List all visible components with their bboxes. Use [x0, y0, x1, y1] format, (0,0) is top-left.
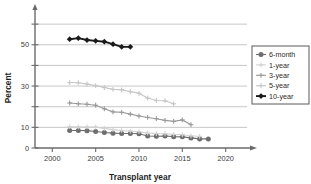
x-axis-tick-label: 2000 — [44, 154, 60, 163]
data-point-marker — [93, 38, 99, 44]
data-point-marker — [75, 35, 81, 41]
x-axis-ticks: 20002005201020152020 — [44, 148, 234, 163]
series-5-year — [67, 80, 176, 106]
data-point-marker — [84, 37, 90, 43]
x-axis-tick-label: 2005 — [87, 154, 103, 163]
series-10-year — [67, 35, 133, 49]
data-point-marker — [101, 39, 107, 45]
y-axis-title: Percent — [3, 72, 13, 103]
y-axis-tick-label: 30 — [21, 82, 29, 91]
x-axis-arrow — [250, 145, 257, 150]
data-point-marker — [93, 129, 98, 134]
chart-container: 0103050 20002005201020152020 Percent Tra… — [0, 0, 311, 184]
legend-item-label: 1-year — [269, 61, 290, 70]
axes — [32, 4, 257, 151]
chart-legend: 6-month1-year3-year5-year10-year — [252, 46, 309, 104]
data-point-marker — [67, 36, 73, 42]
x-axis-title: Transplant year — [109, 172, 172, 182]
data-point-marker — [206, 136, 211, 141]
legend-item-label: 3-year — [269, 71, 290, 80]
y-axis-arrow — [32, 4, 37, 10]
x-axis-tick-label: 2010 — [131, 154, 147, 163]
data-point-marker — [110, 41, 116, 47]
y-axis-tick-label: 50 — [21, 40, 29, 49]
y-axis-tick-label: 0 — [25, 144, 29, 153]
series-3-year — [67, 101, 193, 127]
legend-item-label: 10-year — [269, 92, 294, 101]
y-axis-ticks: 0103050 — [21, 24, 39, 153]
legend-item-label: 5-year — [269, 81, 290, 90]
y-axis-tick-label: 10 — [21, 123, 29, 132]
data-series-group — [67, 35, 211, 141]
x-axis-tick-label: 2015 — [174, 154, 190, 163]
legend-item-label: 6-month — [269, 50, 295, 59]
line-chart: 0103050 20002005201020152020 Percent Tra… — [0, 0, 311, 184]
gridlines — [35, 24, 247, 127]
data-point-marker — [259, 52, 264, 57]
x-axis-tick-label: 2020 — [217, 154, 233, 163]
